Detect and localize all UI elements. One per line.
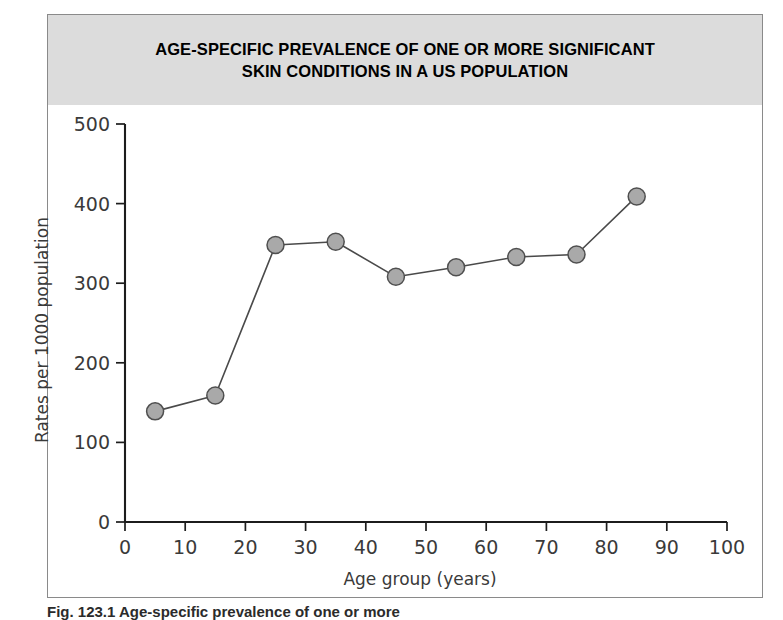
chart-title-line-1: AGE-SPECIFIC PREVALENCE OF ONE OR MORE S… xyxy=(72,38,738,60)
figure-container: AGE-SPECIFIC PREVALENCE OF ONE OR MORE S… xyxy=(0,0,783,620)
chart-title: AGE-SPECIFIC PREVALENCE OF ONE OR MORE S… xyxy=(48,38,762,82)
figure-caption-text: Fig. 123.1 Age-specific prevalence of on… xyxy=(47,604,783,620)
figure-caption: Fig. 123.1 Age-specific prevalence of on… xyxy=(47,604,783,620)
chart-title-line-2: SKIN CONDITIONS IN A US POPULATION xyxy=(72,60,738,82)
chart-title-band: AGE-SPECIFIC PREVALENCE OF ONE OR MORE S… xyxy=(48,15,762,105)
